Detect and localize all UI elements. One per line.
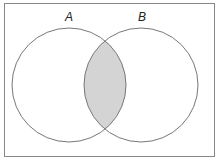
set-b-label: B [138, 10, 146, 24]
venn-diagram: A B [0, 0, 219, 163]
set-a-label: A [64, 10, 73, 24]
